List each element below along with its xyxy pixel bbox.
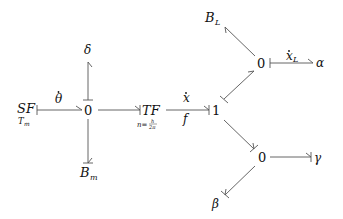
theta-dot-label: θ xyxy=(55,92,63,106)
dot-accent-icon xyxy=(58,91,60,93)
tf-param-lhs: n= xyxy=(137,121,148,129)
bm-label: B xyxy=(79,165,90,180)
bond-1-to-0-top xyxy=(220,71,254,103)
node-bl: B L xyxy=(204,10,220,27)
bond-0-to-alpha: x L xyxy=(270,49,313,68)
dot-accent-icon xyxy=(185,92,187,94)
bond-0-to-bl xyxy=(225,27,255,56)
bond-sf-to-0: θ xyxy=(37,91,82,115)
bond-graph-diagram: SF T m θ 0 δ B m TF n= h 2π xyxy=(0,0,343,219)
dot-accent-icon xyxy=(288,50,290,52)
delta-label: δ xyxy=(84,43,91,57)
bond-0-to-delta xyxy=(83,62,93,100)
bm-sub: m xyxy=(90,173,98,182)
sf-label: SF xyxy=(17,101,36,116)
bond-0-to-beta xyxy=(221,166,255,198)
bl-label: B xyxy=(204,10,215,25)
bond-0-to-gamma xyxy=(270,152,311,162)
tf-param-den: 2π xyxy=(148,124,156,130)
xl-sub: L xyxy=(292,55,298,64)
node-tf: TF n= h 2π xyxy=(137,103,161,130)
tf-label: TF xyxy=(142,103,161,118)
bond-tf-to-1: x f xyxy=(166,91,209,126)
node-sf: SF T m xyxy=(17,101,36,127)
bond-0-to-bm xyxy=(83,119,93,163)
sf-sub-index: m xyxy=(24,120,30,127)
bl-sub: L xyxy=(214,18,220,27)
beta-label: β xyxy=(211,197,219,211)
gamma-label: γ xyxy=(314,151,322,165)
junction-0-top: 0 xyxy=(257,56,265,71)
junction-0-bottom: 0 xyxy=(258,150,266,165)
junction-1: 1 xyxy=(212,103,220,118)
bond-0-to-tf xyxy=(98,105,140,115)
node-bm: B m xyxy=(79,165,98,182)
tf-param-num: h xyxy=(151,118,154,124)
f-label: f xyxy=(182,112,190,126)
junction-0-left: 0 xyxy=(84,103,92,118)
bond-1-to-0-bottom xyxy=(224,120,258,152)
alpha-label: α xyxy=(316,56,324,70)
